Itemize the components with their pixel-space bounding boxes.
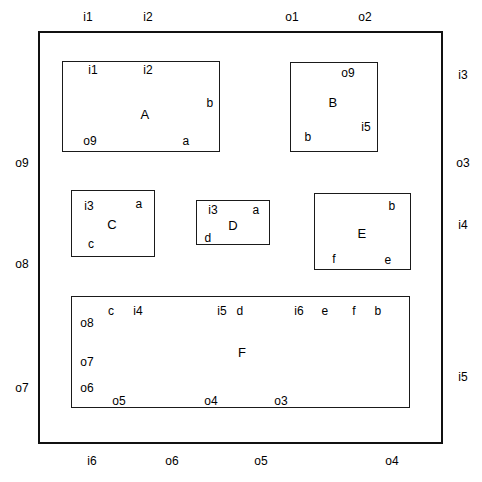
port-label-a-a: a (183, 135, 190, 147)
outer-label-top-o1: o1 (285, 11, 299, 23)
port-label-f-o8: o8 (80, 317, 94, 329)
outer-label-bottom-o5: o5 (254, 455, 268, 467)
box-name-a: A (141, 108, 150, 121)
port-label-d-d: d (205, 232, 212, 244)
diagram-canvas: ABCDEFi1i2o1o2i6o6o5o4o9o8o7i3o3i4i5i1i2… (0, 0, 482, 482)
port-label-f-o6: o6 (80, 382, 94, 394)
box-name-c: C (107, 218, 117, 231)
outer-label-top-o2: o2 (358, 11, 372, 23)
port-label-d-i3: i3 (208, 204, 218, 216)
port-label-e-f: f (332, 253, 336, 265)
outer-label-bottom-o4: o4 (385, 455, 399, 467)
port-label-f-i5: i5 (217, 305, 227, 317)
port-label-a-i2: i2 (143, 64, 153, 76)
outer-label-bottom-i6: i6 (87, 455, 97, 467)
port-label-c-a: a (136, 198, 143, 210)
port-label-b-i5: i5 (361, 121, 371, 133)
port-label-d-a: a (253, 204, 260, 216)
port-label-f-i6: i6 (294, 305, 304, 317)
port-label-a-i1: i1 (88, 64, 98, 76)
box-name-f: F (238, 346, 246, 359)
port-label-b-b: b (305, 131, 312, 143)
outer-label-left-o7: o7 (15, 382, 29, 394)
port-label-a-b: b (207, 97, 214, 109)
port-label-f-o7: o7 (80, 356, 94, 368)
outer-label-right-i3: i3 (458, 69, 468, 81)
port-label-f-f: f (352, 305, 356, 317)
outer-label-left-o9: o9 (15, 157, 29, 169)
box-name-d: D (228, 219, 238, 232)
outer-label-top-i1: i1 (83, 11, 93, 23)
port-label-f-o5: o5 (112, 395, 126, 407)
outer-label-right-o3: o3 (456, 157, 470, 169)
port-label-c-i3: i3 (84, 200, 94, 212)
box-name-b: B (329, 96, 338, 109)
port-label-b-o9: o9 (341, 67, 355, 79)
port-label-e-b: b (389, 200, 396, 212)
outer-label-right-i4: i4 (458, 219, 468, 231)
port-label-e-e: e (385, 254, 392, 266)
port-label-f-b: b (375, 305, 382, 317)
port-label-f-d: d (237, 305, 244, 317)
port-label-f-i4: i4 (133, 305, 143, 317)
outer-label-bottom-o6: o6 (165, 455, 179, 467)
outer-label-left-o8: o8 (15, 258, 29, 270)
port-label-f-o4: o4 (204, 395, 218, 407)
box-name-e: E (358, 227, 367, 240)
port-label-f-c: c (108, 305, 114, 317)
port-label-f-e: e (322, 305, 329, 317)
outer-label-top-i2: i2 (143, 11, 153, 23)
outer-label-right-i5: i5 (458, 371, 468, 383)
port-label-c-c: c (88, 238, 94, 250)
port-label-a-o9: o9 (83, 135, 97, 147)
port-label-f-o3: o3 (274, 395, 288, 407)
